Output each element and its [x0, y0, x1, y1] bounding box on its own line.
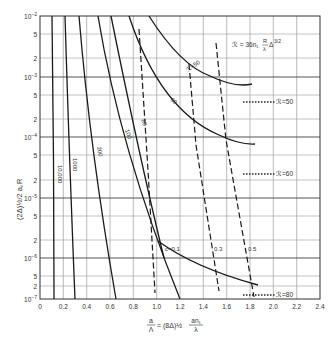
svg-text:λ: λ — [194, 326, 198, 333]
svg-text:1.0: 1.0 — [152, 303, 161, 310]
ref-label-50: ℛ=50 — [276, 98, 293, 105]
svg-text:5: 5 — [33, 92, 37, 99]
svg-text:10−5: 10−5 — [24, 193, 37, 202]
curve-50 — [149, 16, 252, 85]
svg-text:10−3: 10−3 — [24, 72, 37, 81]
solid-curves — [52, 16, 258, 299]
svg-text:ℛ = 36n₁: ℛ = 36n₁ — [232, 41, 259, 48]
y-axis-label: (2Δ)½/2 a꜀R — [15, 178, 24, 220]
label-c03: 0.3 — [214, 246, 223, 252]
svg-text:1.8: 1.8 — [245, 303, 254, 310]
svg-text:R: R — [263, 38, 267, 44]
y-tick-labels: 10−2 5 2 10−3 5 2 10−4 5 2 10−5 5 2 10−6… — [24, 11, 37, 303]
svg-text:an₁: an₁ — [191, 317, 201, 324]
label-200: 200 — [96, 146, 104, 158]
svg-text:10−4: 10−4 — [24, 132, 37, 141]
svg-text:1.2: 1.2 — [175, 303, 184, 310]
curve-10000 — [52, 16, 54, 299]
svg-text:10−7: 10−7 — [24, 294, 37, 303]
curve-60 — [129, 16, 255, 144]
label-1000: 1000 — [72, 158, 78, 172]
curve-200 — [79, 16, 116, 299]
label-c05: 0.5 — [248, 246, 257, 252]
svg-text:0.8: 0.8 — [129, 303, 138, 310]
svg-text:0: 0 — [38, 303, 42, 310]
svg-text:1.6: 1.6 — [222, 303, 231, 310]
x-axis-label: a Λ = (8Δ)½ an₁ λ — [147, 317, 203, 333]
svg-text:2: 2 — [33, 177, 37, 184]
bending-loss-chart: 10−2 5 2 10−3 5 2 10−4 5 2 10−5 5 2 10−6… — [0, 0, 335, 356]
svg-text:Λ: Λ — [149, 326, 154, 333]
curve-c03 — [189, 64, 219, 291]
svg-text:2.4: 2.4 — [315, 303, 324, 310]
svg-text:2.0: 2.0 — [269, 303, 278, 310]
svg-text:5: 5 — [33, 31, 37, 38]
svg-text:= (8Δ)½: = (8Δ)½ — [157, 322, 182, 330]
svg-text:0.2: 0.2 — [59, 303, 68, 310]
svg-text:5: 5 — [33, 152, 37, 159]
svg-text:2.2: 2.2 — [292, 303, 301, 310]
svg-text:5: 5 — [33, 213, 37, 220]
svg-text:2: 2 — [33, 116, 37, 123]
label-80: 80 — [140, 118, 148, 127]
svg-text:λ: λ — [263, 46, 266, 52]
label-10000: 10,000 — [57, 165, 63, 184]
formula-annotation: ℛ = 36n₁ R λ Δ 3/2 — [232, 38, 281, 52]
ref-label-80: ℛ=80 — [276, 291, 293, 298]
vertical-grid — [63, 16, 296, 299]
svg-text:0.4: 0.4 — [82, 303, 91, 310]
svg-text:3/2: 3/2 — [274, 38, 281, 44]
svg-text:2: 2 — [33, 283, 37, 290]
svg-text:10−2: 10−2 — [24, 11, 37, 20]
svg-text:(2Δ)½/2 a꜀R: (2Δ)½/2 a꜀R — [15, 178, 24, 220]
svg-text:10−6: 10−6 — [24, 253, 37, 262]
ref-label-60: ℛ=60 — [276, 170, 293, 177]
x-tick-labels: 0 0.2 0.4 0.6 0.8 1.0 1.2 1.4 1.6 1.8 2.… — [38, 303, 325, 310]
label-c01: c=0.1 — [165, 246, 181, 252]
svg-text:0.6: 0.6 — [105, 303, 114, 310]
svg-text:1.4: 1.4 — [199, 303, 208, 310]
svg-text:5: 5 — [33, 273, 37, 280]
svg-text:a: a — [149, 317, 153, 324]
svg-text:2: 2 — [33, 237, 37, 244]
svg-text:2: 2 — [33, 55, 37, 62]
